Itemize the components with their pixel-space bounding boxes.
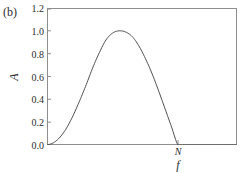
y-axis-ticks <box>47 9 51 145</box>
y-axis-label: A <box>5 68 23 86</box>
x-tick-label-N: N <box>170 147 186 157</box>
plot-area <box>47 8 237 145</box>
y-tick-label: 1.2 <box>2 4 44 14</box>
y-tick-label: 0.0 <box>2 141 44 151</box>
y-tick-label: 1.0 <box>2 27 44 37</box>
figure-panel-b: (b) 1.2 1.0 0.8 0.6 0.4 0.2 0.0 A N f <box>0 0 245 173</box>
y-tick-label: 0.2 <box>2 118 44 128</box>
y-tick-label: 0.4 <box>2 95 44 105</box>
y-tick-label: 0.8 <box>2 50 44 60</box>
x-axis-label: f <box>170 159 186 171</box>
data-curve <box>47 31 237 145</box>
y-axis-tick-labels: 1.2 1.0 0.8 0.6 0.4 0.2 0.0 <box>0 0 44 173</box>
